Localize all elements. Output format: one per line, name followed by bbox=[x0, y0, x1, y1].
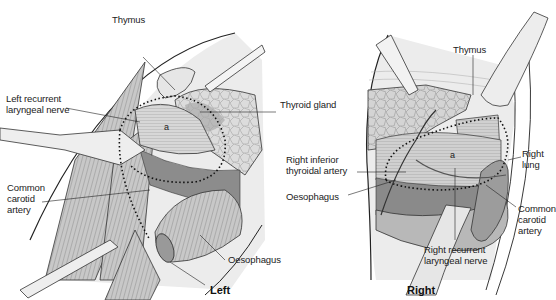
right-panel-illustration: Thymus Right inferior thyroidal artery O… bbox=[276, 0, 552, 300]
right-anatomy-drawing bbox=[276, 0, 552, 300]
label-common-carotid-artery-left: Common carotid artery bbox=[7, 182, 45, 215]
panel-label-right: Right bbox=[407, 284, 435, 296]
label-left-recurrent-laryngeal-nerve: Left recurrent laryngeal nerve bbox=[6, 93, 69, 115]
label-oesophagus-left: Oesophagus bbox=[228, 254, 281, 265]
label-right-lung: Right lung bbox=[522, 148, 544, 170]
label-marker-a-right: a bbox=[450, 150, 455, 161]
label-thymus-left: Thymus bbox=[112, 14, 145, 25]
label-right-inferior-thyroidal-artery: Right inferior thyroidal artery bbox=[286, 154, 347, 176]
label-marker-a-left: a bbox=[164, 122, 169, 133]
label-common-carotid-artery-right: Common carotid artery bbox=[518, 203, 556, 236]
panel-label-left: Left bbox=[210, 284, 230, 296]
label-right-recurrent-laryngeal-nerve: Right recurrent laryngeal nerve bbox=[424, 244, 487, 266]
label-oesophagus-right: Oesophagus bbox=[286, 191, 339, 202]
label-thymus-right: Thymus bbox=[453, 44, 486, 55]
left-panel-illustration: Thymus Left recurrent laryngeal nerve a … bbox=[0, 0, 276, 300]
